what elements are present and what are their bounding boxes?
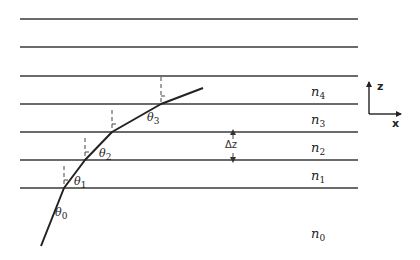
angle-label-theta0: θ0 [55, 207, 67, 221]
angle-label-theta1: θ1 [74, 176, 86, 190]
angle-label-theta3: θ3 [147, 112, 159, 126]
layer-boundaries [20, 19, 358, 188]
delta-z-label: Δz [225, 140, 237, 150]
x-axis-label: x [392, 118, 399, 129]
refractive-index-label-n1: n1 [311, 169, 325, 185]
refractive-index-label-n3: n3 [311, 113, 325, 129]
refractive-index-label-n0: n0 [311, 227, 325, 243]
coordinate-axes [369, 82, 401, 114]
refracted-ray [41, 88, 203, 246]
z-axis-label: z [377, 81, 383, 92]
angle-label-theta2: θ2 [99, 148, 111, 162]
refractive-index-label-n2: n2 [311, 141, 325, 157]
refraction-diagram [0, 0, 420, 260]
refractive-index-label-n4: n4 [311, 85, 325, 101]
